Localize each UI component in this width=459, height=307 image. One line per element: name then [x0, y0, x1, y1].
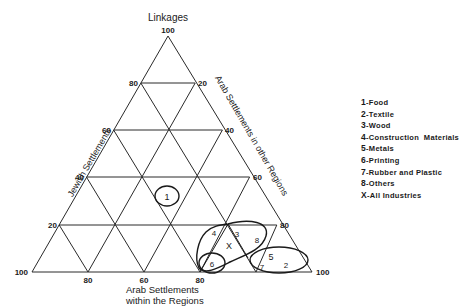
point-label-8: 8: [255, 236, 260, 245]
legend-item-food: 1-Food: [361, 97, 459, 109]
bottom-tick-80-left: 80: [84, 276, 93, 285]
legend-item-metals: 5-Metals: [361, 143, 459, 155]
metals-textile-rubber-ellipse: [250, 247, 308, 273]
point-label-6: 6: [210, 260, 215, 269]
axis-right-label: Arab Settlements in other Regions: [213, 74, 290, 198]
triangle-grid: [32, 36, 312, 272]
point-label-7: 7: [260, 263, 265, 272]
legend-item-all-industries: X-All Industries: [361, 190, 459, 202]
axis-bottom-label-line1: Arab Settlements: [126, 284, 199, 295]
right-tick-20: 20: [198, 79, 207, 88]
point-label-X: X: [226, 241, 232, 251]
right-tick-40: 40: [225, 126, 234, 135]
legend-item-rubber-plastic: 7-Rubber and Plastic: [361, 167, 459, 179]
legend-item-construction: 4-Construction Materials: [361, 132, 459, 144]
left-tick-80: 80: [129, 79, 138, 88]
point-label-4: 4: [212, 229, 217, 238]
point-label-2: 2: [284, 261, 289, 270]
right-tick-80: 80: [280, 221, 289, 230]
right-vertex-value: 100: [316, 268, 330, 277]
legend-item-printing: 6-Printing: [361, 155, 459, 167]
legend-item-others: 8-Others: [361, 178, 459, 190]
right-tick-60: 60: [253, 173, 262, 182]
outer-triangle: [32, 36, 312, 272]
axis-top-label: Linkages: [148, 12, 188, 23]
axis-bottom-label-line2: within the Regions: [125, 295, 204, 306]
legend-item-wood: 3-Wood: [361, 120, 459, 132]
apex-value: 100: [161, 26, 175, 35]
axis-left-label: Jewish Settlements: [66, 126, 114, 199]
point-label-1: 1: [164, 192, 169, 202]
legend-item-textile: 2-Textile: [361, 109, 459, 121]
left-vertex-value: 100: [15, 268, 29, 277]
point-label-5: 5: [268, 252, 273, 262]
left-tick-20: 20: [48, 221, 57, 230]
legend: 1-Food 2-Textile 3-Wood 4-Construction M…: [361, 97, 459, 201]
point-label-3: 3: [235, 230, 240, 239]
